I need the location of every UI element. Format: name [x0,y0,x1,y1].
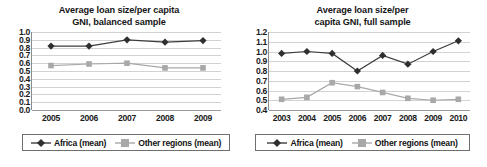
diamond-marker-icon [267,138,287,148]
chart-title-line2: GNI, balanced sample [0,17,238,29]
panel-full-sample: Average loan size/per capita GNI, full s… [238,0,487,167]
data-point-diamond [455,37,462,44]
y-axis-tick-label: 0.9 [256,56,269,66]
x-axis-tick-label: 2003 [273,113,291,123]
y-axis-tick-label: 0.7 [256,76,269,86]
x-axis-tick-label: 2006 [80,113,98,123]
gridline [269,110,470,111]
legend-item-other-regions: Other regions (mean) [115,138,221,148]
chart-title-balanced: Average loan size/per capita GNI, balanc… [0,0,238,28]
data-point-diamond [278,50,285,57]
square-marker-icon [115,138,135,148]
data-point-square [329,80,335,86]
chart-title-line1: Average loan size/per capita [0,5,238,17]
plot-area-full: 1.21.11.00.90.80.70.60.50.4 200320042005… [268,32,470,110]
data-point-diamond [379,52,386,59]
data-point-square [456,96,462,102]
data-point-diamond [404,61,411,68]
data-point-diamond [303,48,310,55]
legend-label-other-regions: Other regions (mean) [138,138,221,148]
data-point-diamond [123,36,130,43]
data-point-square [380,90,386,96]
data-point-square [279,96,285,102]
series-line [282,41,459,71]
y-axis-tick-label: 0.5 [256,95,269,105]
legend-item-other-regions: Other regions (mean) [352,138,458,148]
series-plot-full [269,32,471,110]
data-point-square [304,95,310,101]
series-plot-balanced [32,32,222,110]
x-axis-tick-label: 2007 [118,113,136,123]
chart-title-full: Average loan size/per capita GNI, full s… [238,0,487,28]
y-axis-tick-label: 1.2 [256,27,269,37]
x-axis-tick-label: 2005 [42,113,60,123]
x-axis-tick-label: 2005 [323,113,341,123]
legend-label-africa: Africa (mean) [54,138,106,148]
x-axis-tick-label: 2009 [424,113,442,123]
x-axis-tick-label: 2010 [449,113,467,123]
legend-label-africa: Africa (mean) [290,138,342,148]
y-axis-tick-label: 0.4 [256,105,269,115]
panel-balanced-sample: Average loan size/per capita GNI, balanc… [0,0,238,167]
data-point-diamond [47,42,54,49]
data-point-diamond [199,37,206,44]
x-axis-tick-label: 2008 [399,113,417,123]
y-axis-tick-label: 1.1 [256,37,269,47]
x-axis-tick-label: 2008 [156,113,174,123]
x-axis-tick-label: 2009 [194,113,212,123]
legend-balanced: Africa (mean) Other regions (mean) [22,134,230,151]
gridline [32,110,221,111]
data-point-diamond [430,48,437,55]
y-axis-tick-label: 1.0 [256,47,269,57]
data-point-square [430,97,436,103]
square-marker-icon [352,138,372,148]
chart-title-line2: capita GNI, full sample [238,17,487,29]
data-point-diamond [329,50,336,57]
data-point-square [124,60,130,66]
plot-area-balanced: 1.00.90.80.70.60.50.40.30.20.10.0 200520… [31,32,221,110]
legend-item-africa: Africa (mean) [31,138,106,148]
x-axis-tick-label: 2007 [374,113,392,123]
x-axis-tick-label: 2004 [298,113,316,123]
x-axis-tick-label: 2006 [348,113,366,123]
data-point-square [162,65,168,71]
diamond-marker-icon [31,138,51,148]
data-point-square [355,84,361,90]
y-axis-tick-label: 0.8 [256,66,269,76]
y-axis-tick-label: 0.0 [19,105,32,115]
figure-two-panel-line-charts: Average loan size/per capita GNI, balanc… [0,0,487,167]
data-point-square [405,96,411,102]
legend-item-africa: Africa (mean) [267,138,342,148]
y-axis-tick-label: 0.6 [256,86,269,96]
data-point-square [86,61,92,67]
data-point-diamond [354,67,361,74]
legend-label-other-regions: Other regions (mean) [375,138,458,148]
chart-title-line1: Average loan size/per [238,5,487,17]
legend-full: Africa (mean) Other regions (mean) [255,134,470,151]
data-point-square [200,65,206,71]
data-point-square [48,63,54,69]
data-point-diamond [161,39,168,46]
data-point-diamond [85,42,92,49]
